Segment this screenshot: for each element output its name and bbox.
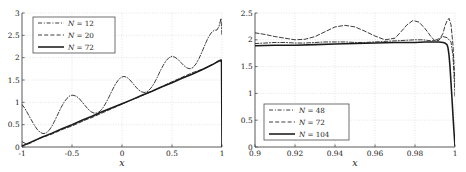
y-tick-label: 0.5 xyxy=(8,120,20,129)
chart-panel-right: 0.90.920.940.960.98100.511.522.5xN=48N=7… xyxy=(233,0,466,172)
y-tick-label: 0 xyxy=(15,143,20,152)
y-tick-label: 2.5 xyxy=(241,9,253,18)
y-tick-label: 3 xyxy=(15,9,20,18)
x-tick-label: 0.5 xyxy=(166,149,178,158)
x-axis-label: x xyxy=(119,157,125,168)
x-tick-label: 0.92 xyxy=(287,149,303,158)
y-tick-label: 1 xyxy=(248,89,253,98)
y-tick-label: 1.5 xyxy=(241,62,253,71)
y-tick-label: 0 xyxy=(248,143,253,152)
left-plot-svg: -1-0.500.5100.511.522.53xN=12N=20N=72 xyxy=(0,0,233,172)
figure-container: -1-0.500.5100.511.522.53xN=12N=20N=72 0.… xyxy=(0,0,466,172)
legend-entry-label: N=72 xyxy=(67,43,94,52)
series-line-dashed xyxy=(255,18,455,82)
chart-panel-left: -1-0.500.5100.511.522.53xN=12N=20N=72 xyxy=(0,0,233,172)
y-tick-label: 2.5 xyxy=(8,31,20,40)
x-tick-label: 0.98 xyxy=(407,149,424,158)
x-tick-label: -0.5 xyxy=(65,149,80,158)
legend-entry-label: N=20 xyxy=(67,31,94,40)
x-tick-label: 1 xyxy=(220,149,225,158)
y-tick-label: 2 xyxy=(15,53,20,62)
x-tick-label: 0.94 xyxy=(327,149,344,158)
y-tick-label: 0.5 xyxy=(241,116,253,125)
right-plot-svg: 0.90.920.940.960.98100.511.522.5xN=48N=7… xyxy=(233,0,466,172)
x-axis-label: x xyxy=(352,157,358,168)
y-tick-label: 1.5 xyxy=(8,76,20,85)
legend-entry-label: N=72 xyxy=(298,118,325,127)
x-tick-label: 1 xyxy=(453,149,458,158)
legend-entry-label: N=12 xyxy=(67,19,94,28)
x-tick-label: 0.96 xyxy=(367,149,384,158)
y-tick-label: 2 xyxy=(248,35,253,44)
y-tick-label: 1 xyxy=(15,98,20,107)
legend-entry-label: N=48 xyxy=(298,106,325,115)
